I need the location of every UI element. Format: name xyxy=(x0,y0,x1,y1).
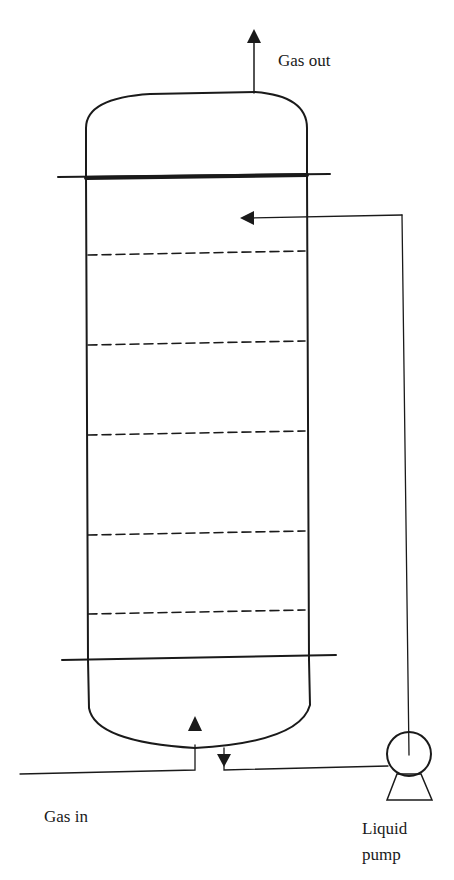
absorption-column-diagram xyxy=(0,0,454,880)
liquid-feed-arrowhead-icon xyxy=(240,211,254,225)
column-right-wall xyxy=(307,175,309,660)
liquid-feed-line xyxy=(250,215,402,218)
column-bottom-dome xyxy=(88,660,310,748)
pump-base-icon xyxy=(387,774,432,800)
column-top-dome xyxy=(86,92,307,175)
tray-2 xyxy=(88,341,305,345)
liquid-return-vertical xyxy=(402,215,409,755)
gas-in-line xyxy=(20,745,195,774)
gas-out-arrowhead-icon xyxy=(247,29,261,43)
column-left-wall xyxy=(86,175,88,660)
tray-4 xyxy=(88,531,305,535)
tray-5 xyxy=(88,610,305,614)
gas-in-arrowhead-icon xyxy=(188,716,202,731)
bottom-flange-line xyxy=(62,655,336,660)
gas-in-label: Gas in xyxy=(44,806,88,828)
liquid-out-arrowhead-icon xyxy=(217,754,231,767)
liquid-pump-label-line1: Liquid xyxy=(362,818,407,840)
liquid-pump-label-line2: pump xyxy=(362,844,401,866)
tray-1 xyxy=(88,251,305,255)
gas-out-label: Gas out xyxy=(278,50,330,72)
tray-3 xyxy=(88,431,305,435)
liquid-out-line xyxy=(224,748,388,770)
